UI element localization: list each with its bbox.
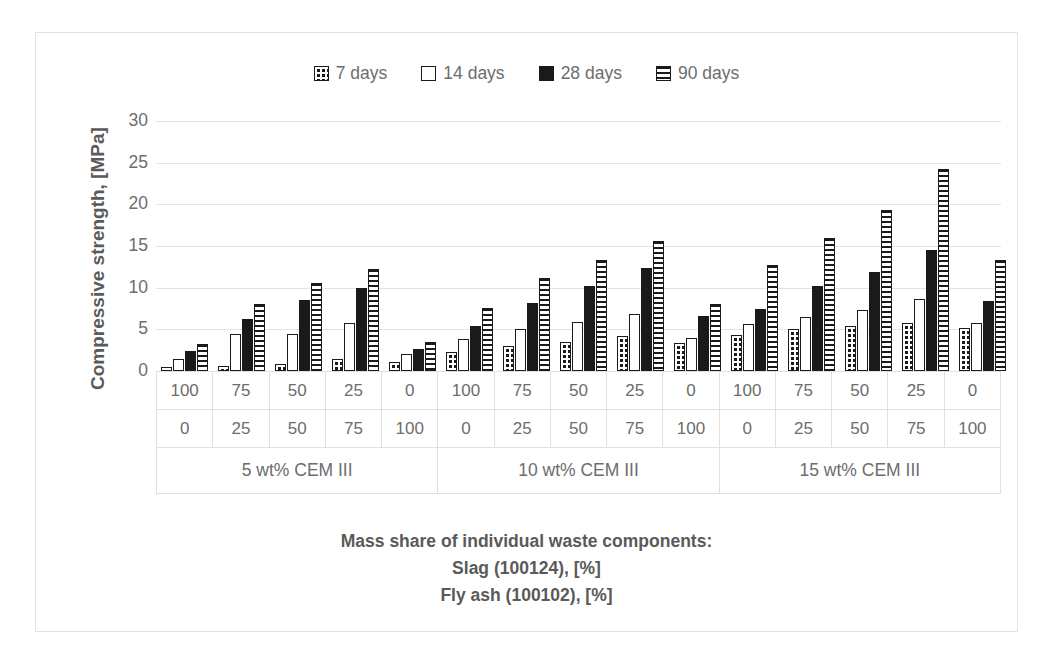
bar-group-1 — [156, 121, 441, 371]
bars-area — [156, 121, 1001, 371]
bar-90-days — [368, 269, 379, 371]
table-cell: 75 — [888, 410, 944, 448]
table-cell: 25 — [775, 410, 831, 448]
legend-item-label: 14 days — [443, 65, 504, 83]
table-cell: 50 — [550, 372, 606, 410]
slag-row: 100755025010075502501007550250 — [157, 372, 1001, 410]
bar-14-days — [173, 359, 184, 372]
bar-14-days — [230, 334, 241, 371]
chart-frame: 7 days14 days28 days90 days Compressive … — [35, 32, 1018, 632]
table-cell: 100 — [157, 372, 213, 410]
bar-cluster — [384, 121, 441, 371]
table-cell: 75 — [775, 372, 831, 410]
bar-group-2 — [441, 121, 726, 371]
bar-cluster — [612, 121, 669, 371]
y-axis-tick-label: 10 — [129, 279, 148, 297]
bar-7-days — [788, 329, 799, 371]
table-cell: 100 — [719, 372, 775, 410]
table-cell: 50 — [832, 372, 888, 410]
group-label-row: 5 wt% CEM III10 wt% CEM III15 wt% CEM II… — [157, 448, 1001, 494]
bar-90-days — [767, 265, 778, 371]
bar-90-days — [197, 344, 208, 371]
bar-group-3 — [726, 121, 1011, 371]
legend-item-28-days: 28 days — [539, 65, 622, 83]
bar-14-days — [914, 299, 925, 372]
bar-7-days — [503, 346, 514, 371]
bar-cluster — [270, 121, 327, 371]
bar-90-days — [653, 241, 664, 371]
bar-14-days — [458, 339, 469, 371]
bar-7-days — [389, 362, 400, 371]
bar-14-days — [572, 322, 583, 371]
legend-item-label: 7 days — [336, 65, 388, 83]
y-axis-tick-label: 20 — [129, 196, 148, 214]
bar-cluster — [669, 121, 726, 371]
y-axis-tick-label: 30 — [129, 112, 148, 130]
bar-90-days — [938, 169, 949, 371]
y-axis-tick-label: 0 — [138, 362, 148, 380]
bar-7-days — [275, 364, 286, 372]
bar-7-days — [446, 352, 457, 371]
table-cell: 100 — [438, 372, 494, 410]
bar-90-days — [311, 283, 322, 371]
caption-line-3: Fly ash (100102), [%] — [36, 582, 1017, 609]
table-cell: 50 — [832, 410, 888, 448]
bar-7-days — [617, 336, 628, 371]
table-cell: 25 — [325, 372, 381, 410]
bar-cluster — [783, 121, 840, 371]
table-cell: 25 — [494, 410, 550, 448]
table-cell: 0 — [719, 410, 775, 448]
legend-item-label: 28 days — [561, 65, 622, 83]
caption-line-1: Mass share of individual waste component… — [36, 528, 1017, 555]
bar-90-days — [881, 210, 892, 371]
chart-legend: 7 days14 days28 days90 days — [36, 65, 1017, 83]
table-cell: 0 — [944, 372, 1000, 410]
table-cell: 50 — [269, 410, 325, 448]
bar-14-days — [401, 354, 412, 371]
legend-swatch-icon — [421, 66, 436, 81]
bar-14-days — [629, 314, 640, 371]
bar-7-days — [332, 359, 343, 371]
legend-item-7-days: 7 days — [314, 65, 388, 83]
bar-14-days — [800, 317, 811, 371]
bar-28-days — [926, 250, 937, 371]
bar-14-days — [344, 323, 355, 371]
bar-28-days — [698, 316, 709, 371]
bar-28-days — [869, 272, 880, 371]
bar-7-days — [902, 323, 913, 371]
legend-swatch-icon — [656, 66, 671, 81]
table-cell: 25 — [213, 410, 269, 448]
bar-90-days — [824, 238, 835, 371]
table-cell: 75 — [607, 410, 663, 448]
bar-cluster — [327, 121, 384, 371]
bar-cluster — [840, 121, 897, 371]
x-axis-caption: Mass share of individual waste component… — [36, 528, 1017, 609]
bar-90-days — [539, 278, 550, 371]
legend-item-label: 90 days — [678, 65, 739, 83]
bar-28-days — [983, 301, 994, 371]
category-table: 1007550250100755025010075502500255075100… — [156, 371, 1001, 494]
bar-cluster — [726, 121, 783, 371]
bar-28-days — [470, 326, 481, 371]
bar-28-days — [356, 288, 367, 371]
table-cell: 0 — [382, 372, 438, 410]
group-label-cell: 10 wt% CEM III — [438, 448, 719, 494]
bar-28-days — [812, 286, 823, 371]
plot-area: 302520151050 — [156, 121, 1001, 371]
bar-14-days — [743, 324, 754, 372]
fly-ash-row: 025507510002550751000255075100 — [157, 410, 1001, 448]
table-cell: 75 — [213, 372, 269, 410]
bar-7-days — [731, 335, 742, 371]
group-label-cell: 15 wt% CEM III — [719, 448, 1000, 494]
bar-28-days — [755, 309, 766, 371]
bar-90-days — [425, 342, 436, 371]
bar-7-days — [674, 343, 685, 371]
bar-7-days — [959, 328, 970, 371]
group-label-cell: 5 wt% CEM III — [157, 448, 438, 494]
bar-cluster — [441, 121, 498, 371]
bar-cluster — [498, 121, 555, 371]
table-cell: 0 — [438, 410, 494, 448]
bar-cluster — [156, 121, 213, 371]
bar-90-days — [482, 308, 493, 371]
bar-28-days — [413, 349, 424, 371]
